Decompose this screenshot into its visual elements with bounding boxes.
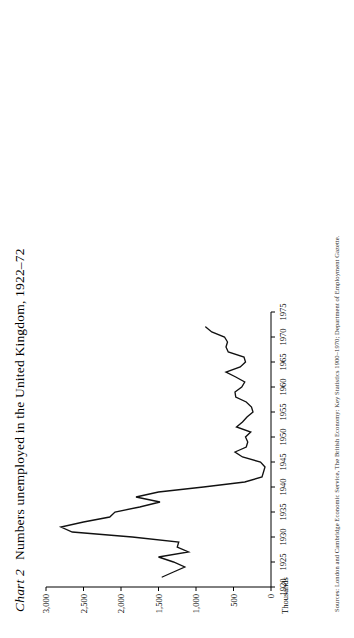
x-tick-label: 1930 [278,529,288,546]
x-tick-label: 1965 [278,354,288,371]
figure-stage: Chart 2Numbers unemployed in the United … [0,0,354,638]
x-tick-label: 1960 [278,379,288,396]
x-tick-label: 1955 [278,404,288,421]
y-tick-label: 2,500 [79,594,89,638]
x-axis-ticks [271,312,275,587]
y-tick-label: 0 [266,594,276,638]
x-tick-label: 1975 [278,304,288,321]
x-tick-label: 1935 [278,504,288,521]
x-tick-label: 1920 [278,579,288,596]
x-tick-label: 1945 [278,454,288,471]
y-tick-label: 3,000 [41,594,51,638]
x-tick-label: 1950 [278,429,288,446]
y-tick-label: 1,500 [154,594,164,638]
chart-canvas [0,0,354,638]
y-tick-label: 2,000 [116,594,126,638]
y-tick-label: 500 [229,594,239,638]
y-tick-label: 1,000 [191,594,201,638]
unemployment-series-line [61,327,265,577]
y-axis-ticks [46,587,271,591]
x-tick-label: 1940 [278,479,288,496]
x-tick-label: 1925 [278,554,288,571]
x-tick-label: 1970 [278,329,288,346]
